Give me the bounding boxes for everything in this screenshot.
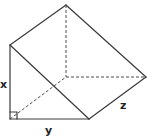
prism-diagram: x y z <box>0 0 147 137</box>
label-z: z <box>120 99 126 112</box>
edge-back-hypotenuse <box>66 5 146 77</box>
label-x: x <box>0 78 7 91</box>
edge-z-depth <box>89 77 146 119</box>
hidden-edge-depth-bottom <box>10 77 66 119</box>
edge-front-hypotenuse <box>10 45 89 119</box>
label-y: y <box>45 124 52 137</box>
edge-top-ridge <box>10 5 66 45</box>
